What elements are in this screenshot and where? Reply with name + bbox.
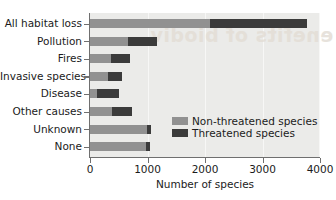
y-axis-tick [84, 94, 89, 95]
y-axis-tick [84, 24, 89, 25]
x-axis-tick-label: 3000 [243, 164, 283, 175]
y-axis-tick [84, 59, 89, 60]
bar-segment-non-threatened [90, 54, 111, 63]
stacked-bar [90, 142, 150, 151]
y-axis-tick [84, 147, 89, 148]
bar-segment-threatened [210, 19, 307, 28]
gridline-4000 [319, 13, 320, 157]
stacked-bar [90, 54, 130, 63]
category-label: Fires [0, 53, 82, 64]
stacked-bar [90, 19, 307, 28]
bar-segment-non-threatened [90, 125, 147, 134]
bar-segment-threatened [112, 107, 132, 116]
legend-item: Non-threatened species [172, 116, 317, 126]
category-label: All habitat loss [0, 18, 82, 29]
y-axis-tick [84, 76, 89, 77]
stacked-bar [90, 72, 122, 81]
category-label: Unknown [0, 124, 82, 135]
y-axis-tick [84, 112, 89, 113]
stacked-bar [90, 89, 119, 98]
category-label: Disease [0, 88, 82, 99]
bar-segment-non-threatened [90, 107, 112, 116]
x-axis-tick-label: 1000 [128, 164, 168, 175]
category-label: Invasive species [0, 71, 82, 82]
y-axis-tick [84, 129, 89, 130]
x-axis-tick-label: 2000 [185, 164, 225, 175]
bar-segment-non-threatened [90, 142, 146, 151]
legend-swatch [172, 129, 188, 137]
legend-label: Non-threatened species [192, 116, 317, 127]
bar-segment-threatened [111, 54, 130, 63]
x-axis-tick-label: 0 [70, 164, 110, 175]
stacked-bar [90, 37, 157, 46]
bar-segment-non-threatened [90, 89, 97, 98]
bar-segment-threatened [108, 72, 122, 81]
legend-swatch [172, 117, 188, 125]
bar-segment-threatened [97, 89, 119, 98]
category-label: None [0, 141, 82, 152]
category-label: Other causes [0, 106, 82, 117]
y-axis-line [89, 13, 90, 158]
chart-legend: Non-threatened speciesThreatened species [172, 116, 317, 138]
legend-item: Threatened species [172, 128, 317, 138]
stacked-bar [90, 107, 132, 116]
bar-segment-non-threatened [90, 37, 128, 46]
gridline-1000 [148, 13, 149, 157]
bar-chart-figure: enefits of biodiv All habitat lossPollut… [0, 0, 336, 200]
category-label: Pollution [0, 36, 82, 47]
x-axis-tick-label: 4000 [300, 164, 336, 175]
bar-segment-threatened [146, 142, 149, 151]
bar-segment-threatened [128, 37, 157, 46]
stacked-bar [90, 125, 151, 134]
y-axis-tick [84, 41, 89, 42]
bar-segment-non-threatened [90, 19, 210, 28]
legend-label: Threatened species [192, 128, 295, 139]
x-axis-title: Number of species [90, 178, 320, 190]
bar-segment-threatened [147, 125, 152, 134]
bar-segment-non-threatened [90, 72, 108, 81]
